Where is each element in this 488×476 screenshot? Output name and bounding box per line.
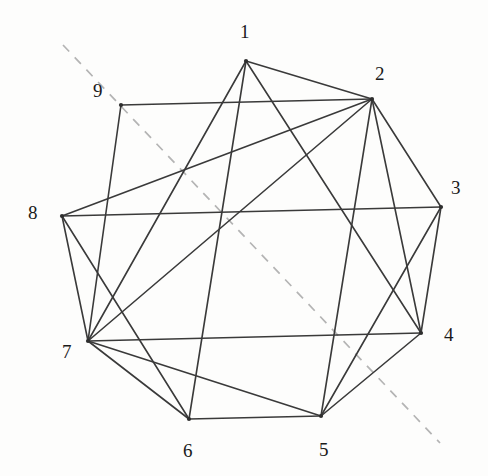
- vertex-label-9: 9: [93, 81, 103, 100]
- edge-1-4: [246, 61, 421, 333]
- edge-2-5: [321, 99, 372, 416]
- edge-1-2: [246, 61, 372, 99]
- vertex-dot-9: [119, 103, 123, 107]
- edge-2-4: [372, 99, 421, 333]
- edge-4-5: [321, 333, 421, 416]
- edge-layer: [62, 61, 441, 419]
- vertex-dot-3: [439, 205, 443, 209]
- vertex-dot-6: [187, 417, 191, 421]
- edge-2-3: [372, 99, 441, 207]
- vertex-dot-4: [419, 331, 423, 335]
- vertex-label-4: 4: [444, 325, 454, 344]
- edge-9-2: [121, 99, 372, 105]
- graph-canvas: [0, 0, 488, 476]
- edge-3-8: [62, 207, 441, 216]
- edge-5-6: [189, 416, 321, 419]
- graph-diagram: 123456789: [0, 0, 488, 476]
- edge-9-7: [88, 105, 121, 341]
- edge-1-6: [189, 61, 246, 419]
- edge-2-8: [62, 99, 372, 216]
- vertex-dot-2: [370, 97, 374, 101]
- edge-6-7: [88, 341, 189, 419]
- edge-1-7: [88, 61, 246, 341]
- vertex-label-7: 7: [62, 342, 72, 361]
- vertex-dot-8: [60, 214, 64, 218]
- vertex-label-1: 1: [240, 22, 250, 41]
- edge-2-7: [88, 99, 372, 341]
- vertex-label-2: 2: [375, 64, 385, 83]
- vertex-label-5: 5: [319, 440, 329, 459]
- vertex-label-3: 3: [451, 178, 461, 197]
- vertex-dot-5: [319, 414, 323, 418]
- edge-5-7: [88, 341, 321, 416]
- edge-6-8: [62, 216, 189, 419]
- vertex-dot-7: [86, 339, 90, 343]
- vertex-dot-1: [244, 59, 248, 63]
- edge-7-8: [62, 216, 88, 341]
- vertex-label-8: 8: [28, 203, 38, 222]
- edge-3-5: [321, 207, 441, 416]
- vertex-dot-layer: [60, 59, 443, 421]
- vertex-label-6: 6: [183, 441, 193, 460]
